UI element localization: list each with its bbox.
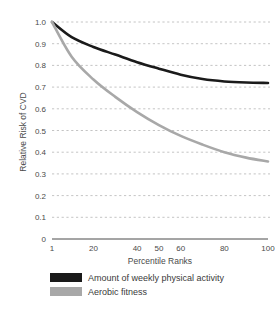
relative-risk-cvd-line-chart: 00.10.20.30.40.50.60.70.80.91.0 12040506… bbox=[0, 0, 276, 314]
y-tick-label-0.3: 0.3 bbox=[35, 170, 47, 179]
y-tick-label-0.8: 0.8 bbox=[35, 61, 47, 70]
legend-swatch-1 bbox=[50, 287, 82, 296]
legend-label-1: Aerobic fitness bbox=[88, 287, 148, 297]
x-tick-label-80: 80 bbox=[220, 244, 229, 253]
x-tick-label-1: 1 bbox=[50, 244, 55, 253]
legend-swatch-0 bbox=[50, 273, 82, 282]
y-tick-label-1.0: 1.0 bbox=[35, 18, 47, 27]
y-axis-title: Relative Risk of CVD bbox=[18, 92, 28, 171]
chart-figure: 00.10.20.30.40.50.60.70.80.91.0 12040506… bbox=[0, 0, 276, 314]
y-tick-label-0: 0 bbox=[42, 235, 47, 244]
y-tick-label-0.5: 0.5 bbox=[35, 127, 47, 136]
x-tick-label-100: 100 bbox=[261, 244, 275, 253]
legend-label-0: Amount of weekly physical activity bbox=[88, 273, 225, 283]
y-tick-label-0.6: 0.6 bbox=[35, 105, 47, 114]
y-tick-label-0.1: 0.1 bbox=[35, 213, 47, 222]
x-tick-label-60: 60 bbox=[176, 244, 185, 253]
y-tick-label-0.9: 0.9 bbox=[35, 40, 47, 49]
x-tick-label-20: 20 bbox=[89, 244, 98, 253]
x-axis-title: Percentile Ranks bbox=[128, 256, 192, 266]
x-tick-label-40: 40 bbox=[133, 244, 142, 253]
y-tick-label-0.2: 0.2 bbox=[35, 192, 47, 201]
x-tick-label-50: 50 bbox=[154, 244, 163, 253]
y-tick-label-0.4: 0.4 bbox=[35, 148, 47, 157]
y-tick-label-0.7: 0.7 bbox=[35, 83, 47, 92]
